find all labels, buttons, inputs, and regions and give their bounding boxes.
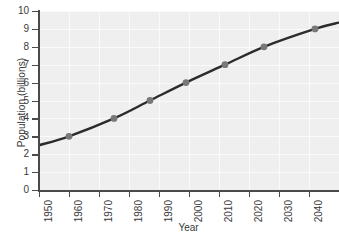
- y-tick-label: 1: [23, 166, 29, 177]
- y-tick: 0: [32, 190, 38, 191]
- y-tick-label: 6: [23, 77, 29, 88]
- x-tick-mark: [279, 191, 280, 197]
- y-tick: 3: [32, 136, 38, 137]
- x-tick-label: 2020: [253, 200, 264, 222]
- x-tick-mark: [69, 191, 70, 197]
- x-tick-label: 1990: [163, 200, 174, 222]
- y-tick-label: 4: [23, 112, 29, 123]
- y-tick-mark: [32, 47, 38, 48]
- data-point-marker: [111, 115, 118, 122]
- x-tick-label: 1970: [103, 200, 114, 222]
- y-tick-mark: [32, 65, 38, 66]
- y-tick: 7: [32, 65, 38, 66]
- x-tick-label: 2040: [313, 200, 324, 222]
- y-tick-label: 8: [23, 41, 29, 52]
- y-tick: 1: [32, 172, 38, 173]
- x-tick-label: 2030: [283, 200, 294, 222]
- y-tick: 2: [32, 154, 38, 155]
- data-point-marker: [312, 26, 319, 33]
- x-axis-title: Year: [38, 222, 339, 233]
- y-tick: 8: [32, 47, 38, 48]
- population-line-chart: Population (billions) 012345678910 19501…: [0, 0, 339, 235]
- y-tick: 4: [32, 118, 38, 119]
- x-tick-mark: [189, 191, 190, 197]
- y-tick-mark: [32, 190, 38, 191]
- data-point-marker: [261, 43, 268, 50]
- y-tick: 9: [32, 29, 38, 30]
- y-tick-mark: [32, 11, 38, 12]
- y-tick-label: 0: [23, 184, 29, 195]
- data-point-marker: [183, 79, 190, 86]
- plot-area: [39, 11, 339, 190]
- series-world-population: [39, 11, 339, 190]
- y-tick-mark: [32, 118, 38, 119]
- y-tick-label: 9: [23, 23, 29, 34]
- x-tick-label: 2000: [193, 200, 204, 222]
- y-tick-label: 10: [18, 5, 29, 16]
- x-tick-mark: [249, 191, 250, 197]
- y-tick-label: 5: [23, 95, 29, 106]
- y-tick-label: 2: [23, 148, 29, 159]
- y-tick-label: 7: [23, 59, 29, 70]
- x-tick-label: 1980: [133, 200, 144, 222]
- y-tick-mark: [32, 136, 38, 137]
- y-tick: 10: [32, 11, 38, 12]
- y-axis-line: [38, 10, 40, 191]
- y-tick-mark: [32, 29, 38, 30]
- x-tick-mark: [129, 191, 130, 197]
- y-tick-mark: [32, 101, 38, 102]
- x-tick-label: 1950: [43, 200, 54, 222]
- data-point-marker: [222, 61, 229, 68]
- x-tick-label: 2010: [223, 200, 234, 222]
- y-tick: 5: [32, 101, 38, 102]
- x-tick-mark: [309, 191, 310, 197]
- x-tick-mark: [219, 191, 220, 197]
- y-tick-mark: [32, 83, 38, 84]
- y-tick-label: 3: [23, 130, 29, 141]
- x-tick-mark: [99, 191, 100, 197]
- y-tick-mark: [32, 154, 38, 155]
- data-point-marker: [66, 133, 73, 140]
- x-tick-mark: [159, 191, 160, 197]
- x-tick-mark: [39, 191, 40, 197]
- y-tick: 6: [32, 83, 38, 84]
- x-tick-label: 1960: [73, 200, 84, 222]
- data-point-marker: [147, 97, 154, 104]
- y-tick-mark: [32, 172, 38, 173]
